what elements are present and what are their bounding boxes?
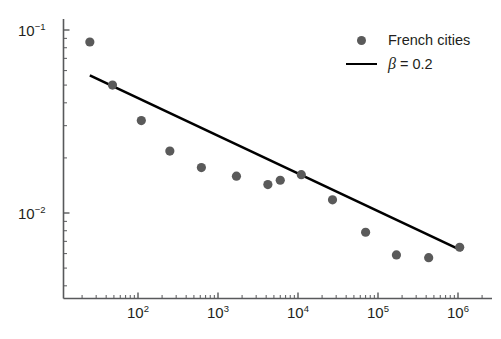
x-tick-label: 103	[207, 305, 229, 320]
data-point	[276, 176, 285, 185]
legend-beta-symbol: β	[388, 55, 396, 72]
data-point	[424, 253, 433, 262]
legend-label-beta: β = 0.2	[382, 55, 433, 73]
y-axis-ticks	[64, 30, 70, 286]
legend-item-french-cities: French cities	[340, 28, 495, 52]
data-point	[197, 163, 206, 172]
data-point	[165, 146, 174, 155]
trend-line	[90, 75, 461, 250]
legend-label-french-cities: French cities	[382, 32, 470, 48]
fit-line	[90, 75, 461, 250]
data-point	[85, 37, 94, 46]
legend-line-icon	[340, 63, 382, 66]
y-tick-label: 10−2	[18, 206, 46, 221]
data-point	[328, 195, 337, 204]
x-tick-label: 104	[287, 305, 309, 320]
legend-beta-value: = 0.2	[400, 56, 433, 72]
x-axis-ticks	[82, 293, 482, 299]
data-point	[263, 180, 272, 189]
data-point	[108, 80, 117, 89]
y-tick-label: 10−1	[18, 23, 46, 38]
legend-dot-icon	[340, 36, 382, 45]
data-point	[392, 250, 401, 259]
data-point	[137, 116, 146, 125]
data-point	[361, 228, 370, 237]
x-tick-label: 102	[127, 305, 149, 320]
x-tick-label: 105	[367, 305, 389, 320]
data-point	[232, 172, 241, 181]
data-point	[455, 243, 464, 252]
chart-figure: 102103104105106 10−110−2 French cities β…	[0, 0, 501, 339]
data-point	[297, 170, 306, 179]
x-tick-label: 106	[447, 305, 469, 320]
legend-item-beta: β = 0.2	[340, 52, 495, 76]
chart-legend: French cities β = 0.2	[340, 28, 495, 76]
